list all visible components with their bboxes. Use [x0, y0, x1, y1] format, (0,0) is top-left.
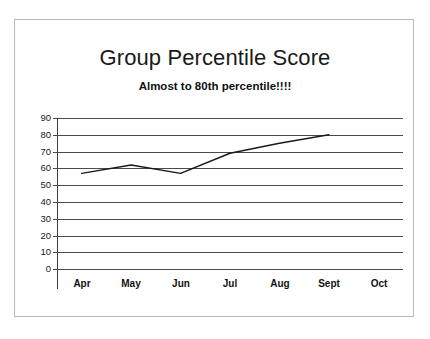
x-axis-label-sept: Sept [306, 278, 352, 289]
x-axis-label-jul: Jul [207, 278, 253, 289]
plot-area: 90 80 70 60 50 40 30 20 10 0 Apr May Jun… [15, 20, 415, 318]
y-axis-label-90: 90 [21, 113, 51, 123]
series-line-group-percentile-score [15, 20, 415, 318]
x-axis-label-aug: Aug [257, 278, 303, 289]
gridline-30 [57, 219, 403, 220]
gridline-0 [57, 269, 403, 270]
y-axis-label-10: 10 [21, 247, 51, 257]
gridline-60 [57, 168, 403, 169]
gridline-20 [57, 236, 403, 237]
y-axis-line [57, 118, 58, 289]
gridline-10 [57, 252, 403, 253]
gridline-70 [57, 152, 403, 153]
y-axis-label-60: 60 [21, 163, 51, 173]
chart-page: Group Percentile Score Almost to 80th pe… [0, 0, 430, 339]
y-axis-label-40: 40 [21, 197, 51, 207]
y-tick-30 [53, 219, 58, 220]
x-axis-label-jun: Jun [158, 278, 204, 289]
y-tick-40 [53, 202, 58, 203]
y-tick-70 [53, 152, 58, 153]
gridline-50 [57, 185, 403, 186]
gridline-80 [57, 135, 403, 136]
x-axis-label-apr: Apr [59, 278, 105, 289]
y-axis-label-80: 80 [21, 130, 51, 140]
y-tick-60 [53, 168, 58, 169]
x-axis-label-may: May [108, 278, 154, 289]
y-tick-10 [53, 252, 58, 253]
gridline-90 [57, 118, 403, 119]
y-tick-90 [53, 118, 58, 119]
y-tick-0 [53, 269, 58, 270]
y-axis-label-30: 30 [21, 214, 51, 224]
y-axis-label-0: 0 [21, 264, 51, 274]
y-axis-label-20: 20 [21, 231, 51, 241]
chart-frame: Group Percentile Score Almost to 80th pe… [14, 19, 414, 317]
gridline-40 [57, 202, 403, 203]
y-tick-20 [53, 236, 58, 237]
x-axis-label-oct: Oct [356, 278, 402, 289]
y-axis-label-70: 70 [21, 147, 51, 157]
y-tick-50 [53, 185, 58, 186]
y-tick-80 [53, 135, 58, 136]
y-axis-label-50: 50 [21, 180, 51, 190]
